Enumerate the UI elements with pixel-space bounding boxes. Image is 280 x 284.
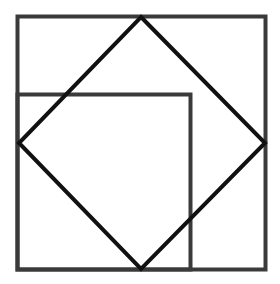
rotated-square-diamond <box>19 17 265 269</box>
outer-square <box>18 17 266 270</box>
geometric-diagram <box>0 0 280 284</box>
